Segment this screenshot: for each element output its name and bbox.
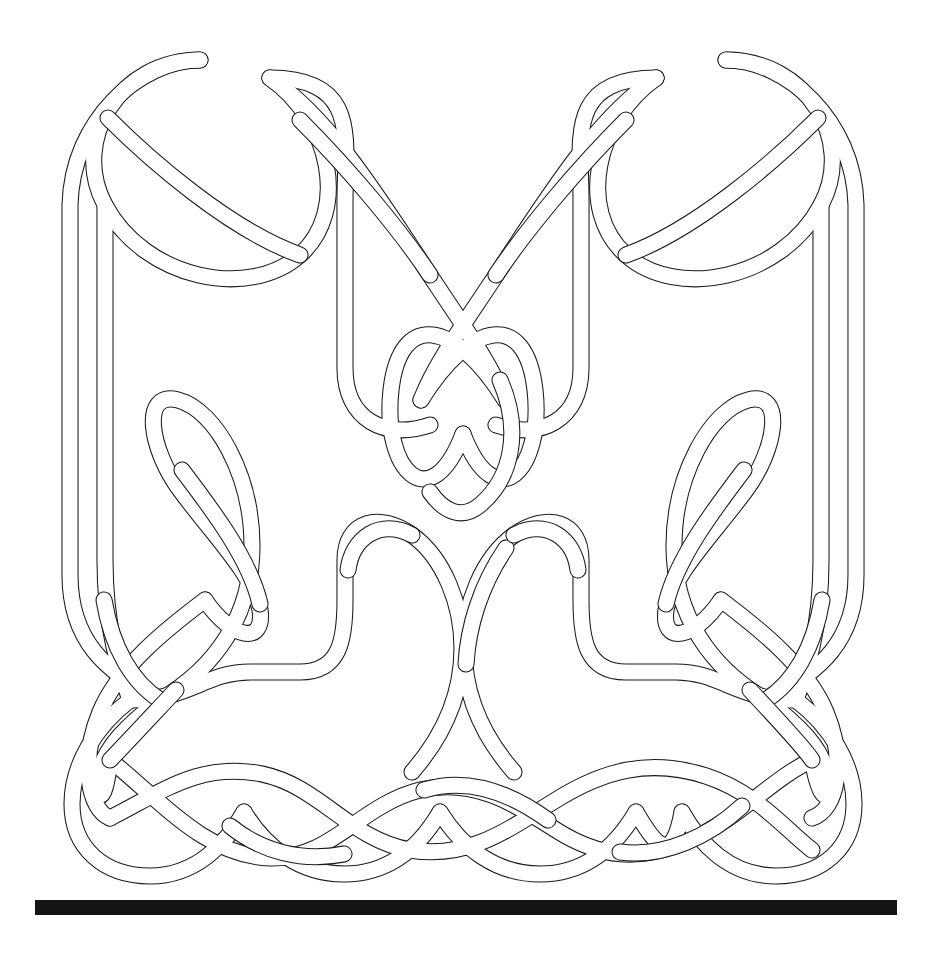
knot-figure-root <box>0 0 925 957</box>
baseline-bar <box>35 900 897 915</box>
celtic-knot-drawing <box>0 0 925 957</box>
